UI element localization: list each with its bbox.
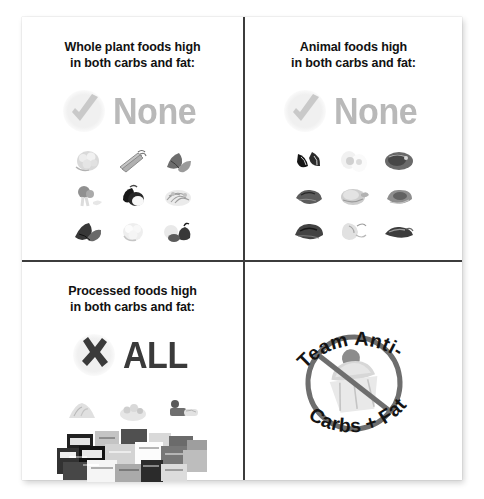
food-grid-whole-plant (22, 146, 243, 246)
quadrant-processed-foods: Processed foods high in both carbs and f… (22, 261, 243, 499)
food-image-cauliflower (70, 146, 106, 176)
check-mark-icon (282, 88, 328, 134)
quadrant-title-processed: Processed foods high in both carbs and f… (22, 261, 243, 315)
processed-loose-items (22, 396, 243, 422)
food-image-eggs (336, 146, 372, 176)
food-image-snack-mix-pile (116, 396, 150, 422)
verdict-whole-plant: None (22, 86, 243, 136)
check-mark-icon (61, 88, 107, 134)
quadrant-whole-plant-foods: Whole plant foods high in both carbs and… (22, 17, 243, 260)
team-anti-carbs-fat-logo: Team Anti- Carbs + Fat (260, 293, 446, 472)
food-image-broccoli (70, 181, 106, 211)
food-image-cauliflower-head (115, 216, 151, 246)
food-image-celery-stalks (115, 146, 151, 176)
verdict-word-none: None (113, 93, 196, 130)
food-image-mussels (291, 146, 327, 176)
food-image-shrimp (336, 216, 372, 246)
title-line-1: Processed foods high (22, 283, 243, 299)
comparison-card: Whole plant foods high in both carbs and… (22, 17, 462, 480)
quadrant-team-logo: Team Anti- Carbs + Fat (243, 261, 464, 499)
food-image-squash-and-peppers (160, 216, 196, 246)
title-line-1: Whole plant foods high (22, 39, 243, 55)
food-image-bacon-strips (381, 216, 417, 246)
food-image-raw-steak (291, 181, 327, 211)
packaged-snack-foods-collage (49, 428, 217, 484)
verdict-word-all: ALL (123, 337, 188, 374)
title-line-2: in both carbs and fat: (22, 299, 243, 315)
food-image-pork-chop (381, 181, 417, 211)
food-image-roast-chicken (336, 181, 372, 211)
quadrant-title-whole-plant: Whole plant foods high in both carbs and… (22, 17, 243, 71)
verdict-word-none: None (334, 93, 417, 130)
screenshot-canvas: Whole plant foods high in both carbs and… (0, 0, 484, 499)
food-image-potato-chips-pile (65, 396, 99, 422)
food-grid-animal (243, 146, 464, 246)
title-line-2: in both carbs and fat: (243, 55, 464, 71)
quadrant-title-animal: Animal foods high in both carbs and fat: (243, 17, 464, 71)
food-image-beef-cuts (291, 216, 327, 246)
food-image-sprouts (160, 181, 196, 211)
verdict-processed: ALL (22, 330, 243, 380)
title-line-2: in both carbs and fat: (22, 55, 243, 71)
food-image-eggplant (115, 181, 151, 211)
food-image-leafy-greens (160, 146, 196, 176)
food-image-fish-fillet (381, 146, 417, 176)
food-image-candy-bar (167, 396, 201, 422)
quadrant-animal-foods: Animal foods high in both carbs and fat:… (243, 17, 464, 260)
verdict-animal: None (243, 86, 464, 136)
x-mark-icon (71, 332, 117, 378)
food-image-kale (70, 216, 106, 246)
title-line-1: Animal foods high (243, 39, 464, 55)
